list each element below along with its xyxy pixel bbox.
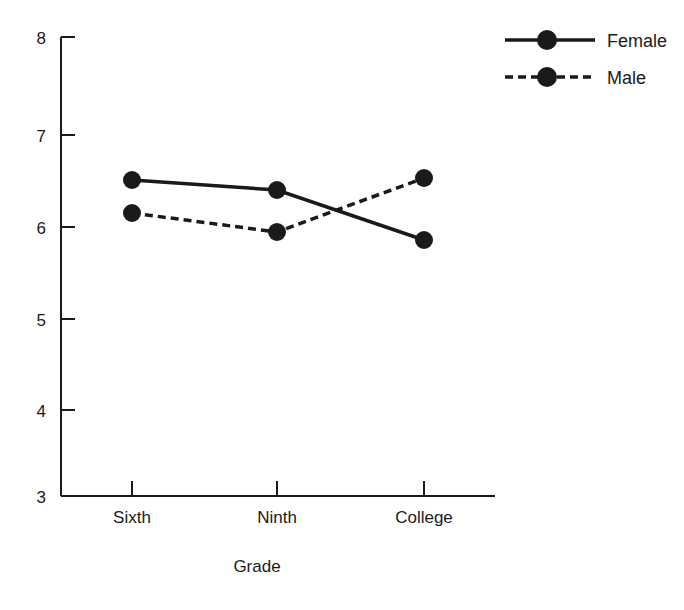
line-chart: 8 7 6 5 4 3 Sixth Ninth College Grade [0,0,684,610]
y-tick-label-8: 8 [37,29,46,48]
chart-canvas: 8 7 6 5 4 3 Sixth Ninth College Grade [0,0,684,610]
data-point-male-college [415,169,433,187]
data-point-male-sixth [123,204,141,222]
legend-marker-female [537,30,557,50]
y-tick-label-6: 6 [37,219,46,238]
data-point-female-college [415,231,433,249]
data-point-male-ninth [268,223,286,241]
legend-label-male: Male [607,68,646,88]
y-tick-label-3: 3 [37,488,46,507]
y-tick-label-4: 4 [37,402,46,421]
x-tick-label-college: College [395,508,453,527]
x-tick-label-sixth: Sixth [113,508,151,527]
legend-item-female[interactable]: Female [505,30,667,51]
x-axis-title: Grade [233,557,280,576]
legend-item-male[interactable]: Male [505,67,646,88]
y-tick-label-5: 5 [37,311,46,330]
legend-marker-male [537,67,557,87]
data-point-female-ninth [268,181,286,199]
data-point-female-sixth [123,171,141,189]
y-tick-label-7: 7 [37,127,46,146]
x-tick-label-ninth: Ninth [257,508,297,527]
legend: Female Male [505,30,667,88]
legend-label-female: Female [607,31,667,51]
